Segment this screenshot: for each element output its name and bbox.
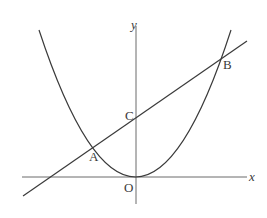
diagram-figure: y x O A B C <box>0 0 267 218</box>
point-a-label: A <box>89 149 99 164</box>
point-c-label: C <box>125 108 134 123</box>
secant-line <box>23 41 247 196</box>
parabola-curve <box>39 30 231 177</box>
y-axis-label: y <box>129 17 137 32</box>
origin-label: O <box>124 180 133 195</box>
point-b-label: B <box>223 57 232 72</box>
x-axis-label: x <box>248 169 255 184</box>
